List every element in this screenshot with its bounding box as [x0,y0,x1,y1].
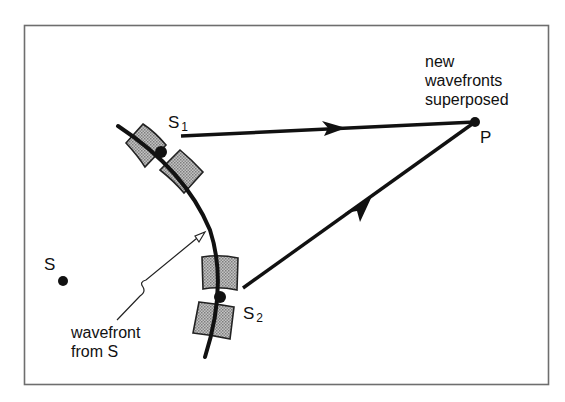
wavelet-patch-s2-upper [202,256,238,290]
secondary-source-s1 [155,146,167,158]
diagram-canvas: S S1 S2 P new wavefronts superposed wave… [0,0,565,402]
secondary-source-s2 [214,291,226,303]
note-line-2: wavefronts [424,72,502,89]
wavefront-pointer-line [117,234,202,320]
label-s: S [44,255,55,274]
arrowhead-s2-ray [345,196,372,222]
wavefront-caption-line-2: from S [71,343,118,360]
wavefront-caption-line-1: wavefront [70,324,141,341]
wavelet-patch-s1-lower [160,150,203,193]
label-p: P [480,128,491,147]
label-s2: S2 [243,304,263,325]
source-point-s [58,276,68,286]
label-s1: S1 [168,113,188,134]
point-p [470,117,480,127]
wavefront-pointer-arrowhead [195,232,205,242]
note-line-1: new [425,53,455,70]
note-line-3: superposed [425,91,509,108]
